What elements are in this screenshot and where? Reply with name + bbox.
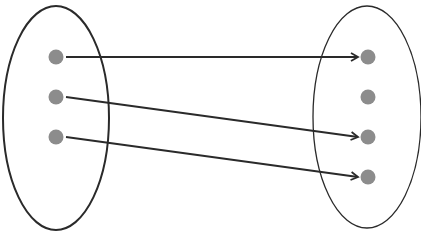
domain-point [49,130,64,145]
codomain-set-ellipse [313,6,421,228]
mapping-diagram [0,0,421,232]
codomain-point [361,130,376,145]
domain-point [49,50,64,65]
codomain-point [361,90,376,105]
domain-point [49,90,64,105]
domain-set-ellipse [3,6,109,230]
codomain-point [361,50,376,65]
codomain-point [361,170,376,185]
